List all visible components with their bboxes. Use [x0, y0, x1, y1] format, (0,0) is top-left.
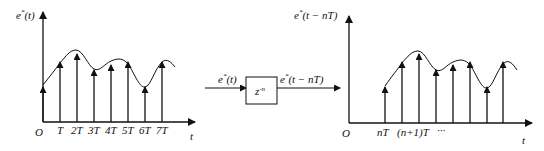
- right-plot: e*(t − nT) O t nT (n+1)T ···: [294, 8, 532, 146]
- left-y-label: e*(t): [16, 8, 35, 22]
- left-tick-label: 4T: [105, 124, 118, 136]
- left-tick-label: 2T: [71, 124, 84, 136]
- right-tick-n-plus-1-T: (n+1)T: [397, 126, 430, 139]
- left-origin-label: O: [35, 126, 43, 138]
- delay-block-diagram: z-n e*(t) e*(t − nT): [205, 72, 340, 104]
- right-x-axis-label: t: [522, 134, 526, 146]
- left-plot: e*(t) O t T2T3T4T5T6T7T: [16, 8, 195, 142]
- right-tick-ellipsis: ···: [437, 124, 446, 136]
- left-envelope-curve: [43, 50, 175, 87]
- right-impulses: [385, 54, 503, 123]
- delay-diagram: e*(t) O t T2T3T4T5T6T7T z-n e*(t) e*(t −…: [0, 0, 544, 151]
- right-envelope-curve: [385, 51, 517, 88]
- left-tick-label: 3T: [87, 124, 101, 136]
- left-tick-label: 6T: [139, 124, 152, 136]
- right-origin-label: O: [342, 127, 350, 139]
- left-x-axis-label: t: [190, 130, 194, 142]
- output-signal-label: e*(t − nT): [280, 72, 324, 86]
- left-tick-label: T: [57, 124, 64, 136]
- input-signal-label: e*(t): [218, 72, 237, 86]
- left-tick-label: 5T: [122, 124, 135, 136]
- left-tick-label: 7T: [156, 124, 169, 136]
- left-impulses: [43, 54, 162, 122]
- right-y-label: e*(t − nT): [294, 8, 338, 22]
- left-tick-labels: T2T3T4T5T6T7T: [57, 124, 169, 136]
- right-tick-nT: nT: [377, 126, 390, 138]
